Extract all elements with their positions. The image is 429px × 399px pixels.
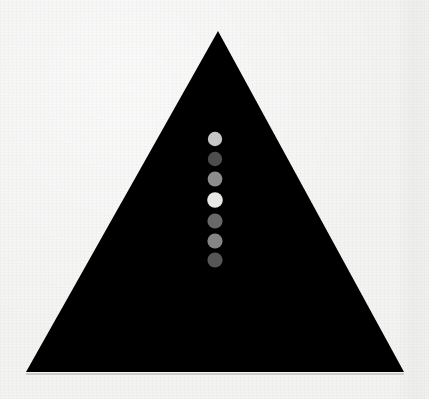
- figure-graphic: [0, 0, 429, 399]
- dot-7: [207, 252, 222, 267]
- dot-2: [208, 152, 222, 166]
- dot-1: [208, 132, 222, 146]
- dot-6: [207, 233, 222, 248]
- dot-3: [208, 172, 223, 187]
- dot-4: [207, 192, 223, 208]
- dot-5: [207, 213, 222, 228]
- image-canvas: [0, 0, 429, 399]
